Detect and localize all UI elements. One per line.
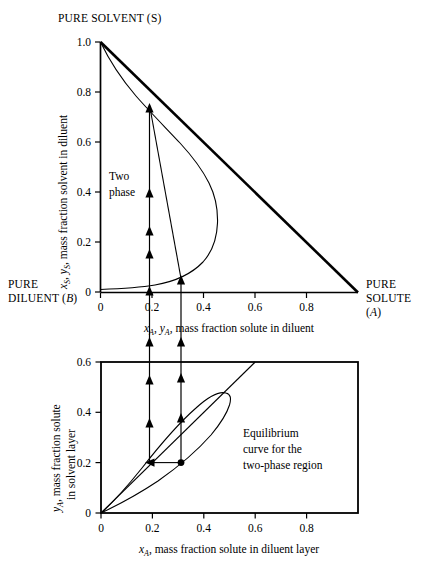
ternary-ytick-0-8: 0.8	[77, 86, 92, 98]
equilibrium-annotation-line3: two-phase region	[243, 459, 323, 472]
ternary-title: PURE SOLVENT (S)	[58, 12, 162, 25]
two-phase-annotation-line1: Two	[109, 170, 130, 182]
ternary-extraction-figure: PURE SOLVENT (S) 1.0 0.8 0.6 0.4 0.2 0	[0, 0, 426, 573]
equilibrium-annotation-line1: Equilibrium	[243, 427, 299, 440]
ternary-ytick-0-6: 0.6	[77, 136, 92, 148]
ternary-xtick-0-4: 0.4	[196, 301, 211, 313]
ternary-ytick-0-4: 0.4	[77, 186, 92, 198]
ternary-xtick-0-8: 0.8	[299, 301, 314, 313]
equilibrium-xtick-0: 0	[98, 522, 104, 534]
ternary-xtick-0-2: 0.2	[145, 301, 160, 313]
figure-canvas: PURE SOLVENT (S) 1.0 0.8 0.6 0.4 0.2 0	[0, 0, 426, 573]
ternary-ytick-1-0: 1.0	[77, 36, 92, 48]
corner-label-pure-solute-line2: SOLUTE	[366, 292, 411, 304]
equilibrium-ytick-0: 0	[85, 507, 91, 519]
equilibrium-xtick-0-2: 0.2	[145, 522, 160, 534]
corner-label-pure-solute-line3: (A)	[366, 306, 381, 319]
equilibrium-ytick-0-2: 0.2	[77, 457, 92, 469]
corner-label-pure-diluent-line2: DILUENT (B)	[8, 292, 77, 305]
ternary-ytick-0: 0	[85, 286, 91, 298]
equilibrium-ytick-0-4: 0.4	[77, 406, 92, 418]
equilibrium-xtick-0-4: 0.4	[197, 522, 212, 534]
equilibrium-ytick-0-6: 0.6	[77, 356, 92, 368]
equilibrium-annotation-line2: curve for the	[243, 443, 302, 455]
equilibrium-xtick-0-8: 0.8	[299, 522, 314, 534]
two-phase-annotation-line2: phase	[109, 186, 135, 199]
equilibrium-y-axis-title-line2: in solvent layer	[65, 429, 78, 500]
corner-label-pure-solute-line1: PURE	[366, 278, 396, 290]
ternary-ytick-0-2: 0.2	[77, 236, 92, 248]
corner-label-pure-diluent-line1: PURE	[8, 278, 38, 290]
ternary-xtick-0-6: 0.6	[248, 301, 263, 313]
equilibrium-xtick-0-6: 0.6	[248, 522, 263, 534]
ternary-xtick-0: 0	[98, 301, 104, 313]
